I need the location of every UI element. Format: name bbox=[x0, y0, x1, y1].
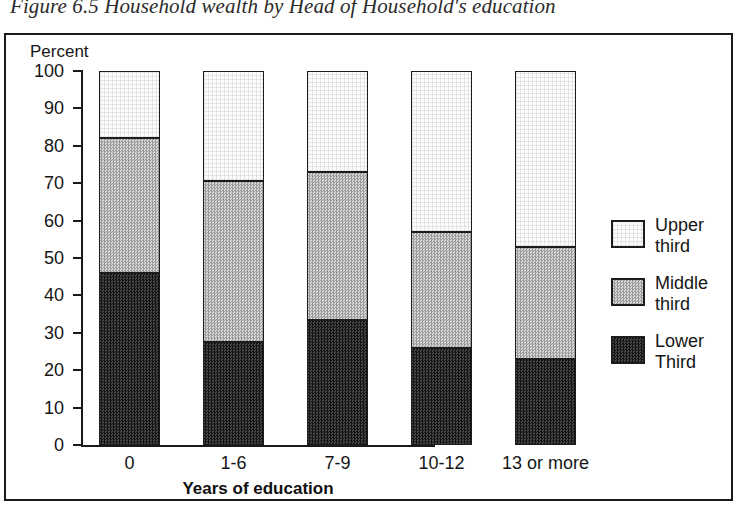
figure-caption: Figure 6.5 Household wealth by Head of H… bbox=[10, 0, 710, 22]
legend-label-line2: third bbox=[655, 236, 704, 257]
legend-label-line2: Third bbox=[655, 352, 704, 373]
bar-segment-middle-third bbox=[515, 247, 576, 359]
x-axis-tick-label: 0 bbox=[70, 453, 190, 474]
legend-item-label: Middlethird bbox=[655, 273, 708, 315]
bar-segment-lower-third bbox=[99, 273, 160, 445]
y-axis-tick bbox=[73, 407, 82, 409]
bar-segment-lower-third bbox=[203, 342, 264, 445]
y-axis-tick-label: 50 bbox=[20, 249, 64, 267]
y-axis-tick-label: 60 bbox=[20, 212, 64, 230]
y-axis-title: Percent bbox=[30, 42, 89, 62]
x-axis-tick-label: 1-6 bbox=[174, 453, 294, 474]
bar-segment-middle-third bbox=[307, 172, 368, 320]
y-axis-tick bbox=[73, 182, 82, 184]
legend-label-line1: Lower bbox=[655, 331, 704, 352]
bar-segment-lower-third bbox=[307, 320, 368, 445]
y-axis-tick bbox=[73, 220, 82, 222]
bar-segment-upper-third bbox=[99, 71, 160, 138]
y-axis-tick-label: 20 bbox=[20, 361, 64, 379]
bar-segment-middle-third bbox=[411, 232, 472, 348]
bar-segment-middle-third bbox=[99, 138, 160, 273]
y-axis-tick bbox=[73, 444, 82, 446]
medium-swatch bbox=[611, 278, 645, 306]
y-axis-tick bbox=[73, 107, 82, 109]
bar-segment-lower-third bbox=[515, 359, 576, 445]
bar-segment-lower-third bbox=[411, 348, 472, 445]
stacked-bar bbox=[203, 71, 264, 445]
y-axis-tick-label: 40 bbox=[20, 286, 64, 304]
light-swatch bbox=[611, 220, 645, 248]
y-axis-tick bbox=[73, 257, 82, 259]
y-axis-tick-label: 10 bbox=[20, 399, 64, 417]
chart-frame: Percent 0102030405060708090100 01-67-910… bbox=[4, 33, 733, 501]
y-axis-tick-label: 100 bbox=[20, 62, 64, 80]
y-axis-tick bbox=[73, 145, 82, 147]
x-axis-title: Years of education bbox=[81, 479, 435, 499]
bar-segment-upper-third bbox=[515, 71, 576, 247]
x-axis-tick-label: 13 or more bbox=[486, 453, 606, 474]
stacked-bar bbox=[307, 71, 368, 445]
legend-label-line1: Middle bbox=[655, 273, 708, 294]
x-axis-line bbox=[81, 445, 435, 447]
x-axis-tick-label: 10-12 bbox=[382, 453, 502, 474]
stacked-bar bbox=[99, 71, 160, 445]
y-axis-tick bbox=[73, 369, 82, 371]
bar-segment-upper-third bbox=[411, 71, 472, 232]
bar-segment-upper-third bbox=[307, 71, 368, 172]
legend-label-line1: Upper bbox=[655, 215, 704, 236]
y-axis-tick-label: 80 bbox=[20, 137, 64, 155]
bar-segment-middle-third bbox=[203, 181, 264, 342]
legend-item-label: Upperthird bbox=[655, 215, 704, 257]
dark-swatch bbox=[611, 336, 645, 364]
y-axis-tick bbox=[73, 294, 82, 296]
legend-item-label: LowerThird bbox=[655, 331, 704, 373]
y-axis-tick-label: 90 bbox=[20, 99, 64, 117]
y-axis-tick bbox=[73, 70, 82, 72]
plot-area: Percent 0102030405060708090100 01-67-910… bbox=[6, 35, 731, 499]
stacked-bar bbox=[411, 71, 472, 445]
y-axis-tick-label: 0 bbox=[20, 436, 64, 454]
y-axis-tick-label: 70 bbox=[20, 174, 64, 192]
legend-label-line2: third bbox=[655, 294, 708, 315]
bar-segment-upper-third bbox=[203, 71, 264, 181]
y-axis-tick-label: 30 bbox=[20, 324, 64, 342]
y-axis-tick bbox=[73, 332, 82, 334]
x-axis-tick-label: 7-9 bbox=[278, 453, 398, 474]
stacked-bar bbox=[515, 71, 576, 445]
